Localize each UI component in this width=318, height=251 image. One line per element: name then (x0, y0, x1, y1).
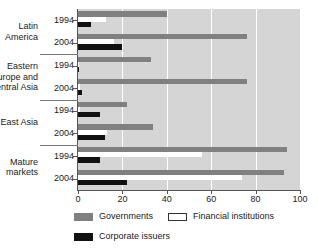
x-tick-label-20: 20 (107, 195, 137, 204)
category-label: LatinAmerica (0, 21, 38, 42)
year-label: 1994 (34, 152, 74, 161)
legend-swatch-financial-institutions (168, 213, 187, 221)
x-axis-line (77, 190, 301, 191)
bar-gov (78, 79, 247, 84)
y-tick (73, 88, 78, 89)
category-label-line: Latin (0, 21, 38, 32)
year-label: 1994 (34, 61, 74, 70)
x-tick-label-60: 60 (196, 195, 226, 204)
category-label-line: Mature (0, 157, 38, 168)
legend-item-corporate-issuers: Corporate issuers (74, 232, 170, 241)
y-tick (73, 111, 78, 112)
legend-item-financial-institutions: Financial institutions (168, 212, 274, 221)
category-label: East Asia (0, 117, 38, 128)
legend-item-governments: Governments (74, 212, 153, 221)
category-label: EasternEurope andCentral Asia (0, 61, 38, 93)
x-tick-label-100: 100 (285, 195, 315, 204)
bar-gov (78, 102, 127, 107)
category-label-line: markets (0, 167, 38, 178)
year-label: 2004 (34, 174, 74, 183)
category-label-line: East Asia (0, 117, 38, 128)
legend-label-governments: Governments (99, 212, 153, 221)
category-label-line: Eastern (0, 61, 38, 72)
category-label-line: America (0, 32, 38, 43)
x-tick-label-0: 0 (63, 195, 93, 204)
year-label: 1994 (34, 16, 74, 25)
bar-corp (78, 22, 91, 27)
bar-corp (78, 90, 82, 95)
gridline-80 (256, 9, 257, 190)
x-tick-label-40: 40 (152, 195, 182, 204)
year-label: 1994 (34, 106, 74, 115)
bar-corp (78, 44, 122, 49)
legend-swatch-corporate-issuers (74, 233, 93, 241)
category-label-line: Europe and (0, 72, 38, 83)
legend-swatch-governments (74, 213, 93, 221)
year-label: 2004 (34, 84, 74, 93)
bar-corp (78, 112, 100, 117)
group-separator (40, 100, 78, 101)
y-tick (73, 20, 78, 21)
group-separator (40, 54, 78, 55)
group-separator (40, 145, 78, 146)
bar-corp (78, 180, 127, 185)
year-label: 2004 (34, 38, 74, 47)
legend-label-corporate-issuers: Corporate issuers (99, 232, 170, 241)
y-tick (73, 179, 78, 180)
bond-issuance-bar-chart: LatinAmerica19942004EasternEurope andCen… (0, 0, 318, 251)
bar-corp (78, 67, 79, 72)
x-tick-label-80: 80 (241, 195, 271, 204)
y-tick (73, 66, 78, 67)
y-tick (73, 43, 78, 44)
category-label: Maturemarkets (0, 157, 38, 178)
year-label: 2004 (34, 129, 74, 138)
legend-label-financial-institutions: Financial institutions (193, 212, 274, 221)
bar-gov (78, 57, 151, 62)
bar-corp (78, 157, 100, 162)
category-label-line: Central Asia (0, 82, 38, 93)
gridline-100 (300, 9, 301, 190)
bar-corp (78, 135, 105, 140)
y-tick (73, 133, 78, 134)
y-tick (73, 156, 78, 157)
